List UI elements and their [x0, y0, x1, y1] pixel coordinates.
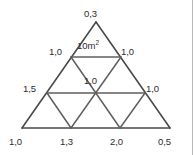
label-bottom-4: 0,5 [158, 137, 171, 147]
label-row2-left: 1,5 [23, 84, 36, 94]
label-center: 1,0 [84, 76, 97, 86]
area-annotation: 10m2 [77, 41, 99, 51]
area-unit: m [88, 40, 96, 51]
triangle-diagram: 0,3 1,0 1,0 1,0 1,5 1,0 1,0 1,3 2,0 0,5 … [0, 0, 193, 155]
label-row2-right: 1,0 [146, 84, 159, 94]
diagonal-right-lean-2 [47, 93, 71, 128]
label-row1-left: 1,0 [49, 47, 62, 57]
label-apex: 0,3 [84, 9, 97, 19]
diagonal-left-lean-2 [120, 93, 145, 128]
outer-edge-right [96, 22, 170, 128]
area-exponent: 2 [96, 39, 100, 46]
label-bottom-1: 1,0 [9, 137, 22, 147]
label-bottom-2: 1,3 [60, 137, 73, 147]
label-row1-right: 1,0 [121, 47, 134, 57]
area-value: 10 [77, 40, 88, 51]
label-bottom-3: 2,0 [110, 137, 123, 147]
